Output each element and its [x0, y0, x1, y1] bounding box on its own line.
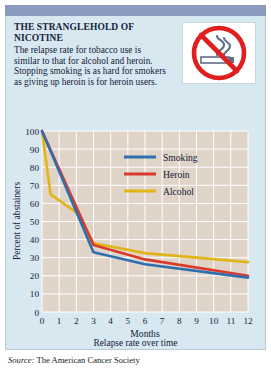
svg-text:2: 2 [74, 316, 79, 326]
svg-text:4: 4 [108, 316, 113, 326]
svg-text:6: 6 [143, 316, 148, 326]
svg-text:20: 20 [30, 271, 40, 281]
chart-caption: Relapse rate over time [8, 338, 263, 348]
legend-label-heroin: Heroin [163, 169, 190, 180]
svg-text:50: 50 [30, 217, 40, 227]
panel-top-bar [5, 5, 266, 16]
x-axis-tick-labels: 0 1 2 3 4 5 6 7 8 9 10 11 12 [40, 316, 253, 326]
svg-text:0: 0 [34, 308, 39, 318]
chart-svg: 100 90 80 70 60 50 40 30 20 10 0 0 1 2 3… [8, 110, 263, 348]
legend-label-smoking: Smoking [163, 152, 198, 163]
svg-text:70: 70 [30, 181, 40, 191]
svg-text:40: 40 [30, 235, 40, 245]
svg-text:7: 7 [160, 316, 165, 326]
legend-label-alcohol: Alcohol [163, 186, 194, 197]
svg-text:8: 8 [177, 316, 182, 326]
no-smoking-sign [182, 22, 256, 84]
svg-text:60: 60 [30, 199, 40, 209]
svg-text:100: 100 [25, 127, 39, 137]
svg-text:9: 9 [194, 316, 199, 326]
svg-text:10: 10 [30, 289, 40, 299]
svg-text:12: 12 [243, 316, 253, 326]
relapse-rate-chart: 100 90 80 70 60 50 40 30 20 10 0 0 1 2 3… [8, 110, 263, 348]
source-attribution: Source: The American Cancer Society [8, 355, 266, 365]
y-axis-tick-labels: 100 90 80 70 60 50 40 30 20 10 0 [25, 127, 39, 318]
svg-text:90: 90 [30, 145, 40, 155]
svg-text:5: 5 [126, 316, 131, 326]
svg-text:1: 1 [57, 316, 62, 326]
svg-text:30: 30 [30, 253, 40, 263]
page-title: THE STRANGLEHOLD OF NICOTINE [14, 22, 164, 43]
infographic-page: THE STRANGLEHOLD OF NICOTINE The relapse… [0, 0, 271, 374]
source-label: Source: [8, 355, 34, 365]
body-paragraph: The relapse rate for tobacco use is simi… [14, 45, 166, 87]
y-axis-label: Percent of abstainers [12, 182, 22, 260]
svg-text:0: 0 [40, 316, 45, 326]
svg-text:80: 80 [30, 163, 40, 173]
svg-text:10: 10 [209, 316, 219, 326]
svg-text:3: 3 [91, 316, 96, 326]
svg-text:11: 11 [226, 316, 235, 326]
no-smoking-icon [183, 23, 255, 83]
source-text: The American Cancer Society [34, 355, 139, 365]
